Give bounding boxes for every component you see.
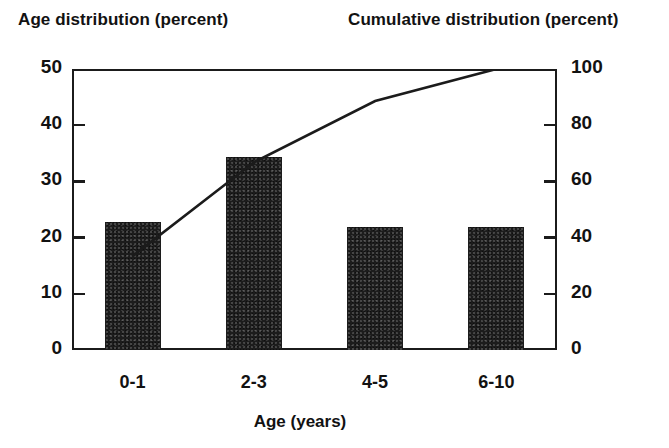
x-axis-tick-label: 4-5 xyxy=(330,372,420,393)
bar xyxy=(468,227,524,350)
right-axis-tick xyxy=(544,293,557,296)
left-axis-tick xyxy=(72,180,85,183)
left-axis-tick xyxy=(72,124,85,127)
left-axis-tick-label: 0 xyxy=(2,337,62,359)
left-axis-tick-label: 10 xyxy=(2,281,62,303)
x-axis-tick-label: 6-10 xyxy=(451,372,541,393)
right-axis-tick-label: 100 xyxy=(571,56,641,78)
left-axis-tick-label: 20 xyxy=(2,225,62,247)
right-axis-tick-label: 20 xyxy=(571,281,641,303)
right-axis-tick-label: 80 xyxy=(571,112,641,134)
bar xyxy=(347,227,403,350)
left-axis-tick-label: 30 xyxy=(2,168,62,190)
bar xyxy=(105,222,161,350)
right-axis-tick-label: 40 xyxy=(571,225,641,247)
left-axis-title: Age distribution (percent) xyxy=(18,10,228,30)
plot-area xyxy=(72,69,557,350)
chart-figure: Age distribution (percent) Cumulative di… xyxy=(0,0,669,448)
x-axis-tick-label: 0-1 xyxy=(88,372,178,393)
left-axis-tick-label: 50 xyxy=(2,56,62,78)
x-axis-caption: Age (years) xyxy=(0,412,600,432)
right-axis-tick-label: 60 xyxy=(571,168,641,190)
x-axis-tick-label: 2-3 xyxy=(209,372,299,393)
bar xyxy=(226,157,282,350)
left-axis-tick xyxy=(72,293,85,296)
right-axis-title: Cumulative distribution (percent) xyxy=(348,10,619,30)
right-axis-tick-label: 0 xyxy=(571,337,641,359)
left-axis-tick-label: 40 xyxy=(2,112,62,134)
right-axis-tick xyxy=(544,124,557,127)
left-axis-tick xyxy=(72,236,85,239)
right-axis-tick xyxy=(544,180,557,183)
right-axis-tick xyxy=(544,236,557,239)
